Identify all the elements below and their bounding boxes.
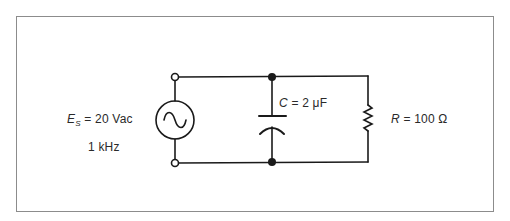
top-junction-dot: [268, 73, 276, 81]
capacitor-equals: =: [291, 96, 298, 110]
circuit-schematic: [0, 0, 510, 221]
resistor-equals: =: [403, 112, 410, 126]
resistor-value: 100 Ω: [414, 112, 447, 126]
bottom-terminal-icon: [172, 160, 179, 167]
source-label: ES = 20 Vac: [67, 112, 133, 128]
source-frequency: 1 kHz: [88, 140, 120, 154]
resistor-icon: [364, 105, 372, 131]
source-value: 20 Vac: [95, 112, 133, 126]
source-subscript: S: [75, 119, 81, 128]
resistor-symbol: R: [391, 112, 400, 126]
resistor-label: R = 100 Ω: [391, 112, 448, 126]
source-symbol: E: [67, 112, 75, 126]
capacitor-label: C = 2 μF: [279, 96, 327, 110]
capacitor-symbol: C: [279, 96, 288, 110]
source-equals: =: [84, 112, 91, 126]
sine-wave-icon: [164, 113, 186, 128]
top-terminal-icon: [172, 74, 179, 81]
capacitor-value: 2 μF: [302, 96, 327, 110]
bottom-junction-dot: [268, 158, 276, 166]
